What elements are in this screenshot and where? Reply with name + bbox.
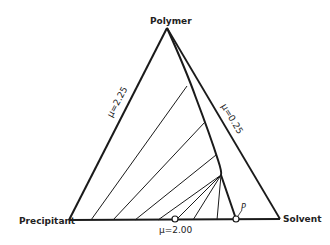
edge-label-bottom: μ=2.00 [159,225,193,235]
vertex-label-polymer: Polymer [150,16,192,26]
vertex-label-solvent: Solvent [283,214,322,224]
edge-label-left: μ=2.25 [105,85,129,119]
vertex-label-precipitant: Precipitant [19,216,76,226]
mu-2-point-marker [172,216,178,222]
triangle-right-edge [167,28,280,219]
triangle-left-edge [69,28,167,220]
point-label-p: P [241,203,246,212]
edge-label-right: μ=0.25 [219,102,245,136]
binodal-curve [167,28,236,219]
ternary-diagram: Polymer Precipitant Solvent μ=2.25 μ=0.2… [0,0,330,245]
point-p-marker [233,216,239,222]
